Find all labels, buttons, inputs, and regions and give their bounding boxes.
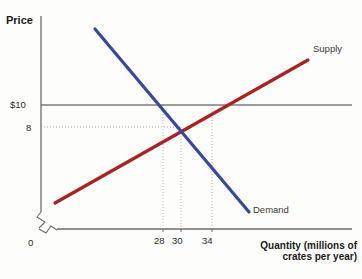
- y-axis-title: Price: [6, 14, 33, 26]
- x-tick-label-34: 34: [202, 236, 213, 247]
- x-axis-title-line2: crates per year): [260, 251, 357, 262]
- supply-demand-chart: Price Quantity (millions of crates per y…: [0, 0, 362, 279]
- y-tick-label-price-10: $10: [10, 100, 26, 111]
- origin-label: 0: [28, 238, 33, 249]
- series-label-demand: Demand: [253, 205, 289, 216]
- x-axis-title-line1: Quantity (millions of: [260, 240, 357, 251]
- x-tick-label-30: 30: [172, 236, 183, 247]
- y-tick-label-price-8: 8: [26, 123, 31, 134]
- demand-curve: [95, 29, 249, 212]
- series-label-supply: Supply: [313, 44, 342, 55]
- x-axis-break-icon: [39, 226, 57, 233]
- x-tick-label-28: 28: [154, 236, 165, 247]
- y-axis-break-icon: [37, 212, 45, 228]
- x-axis-title: Quantity (millions of crates per year): [260, 240, 357, 262]
